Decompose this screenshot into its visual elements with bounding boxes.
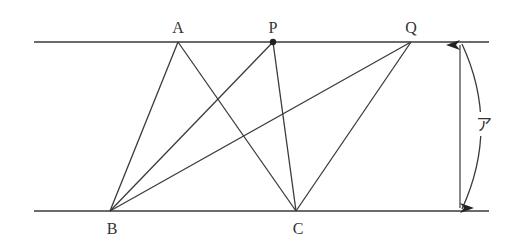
label-a: A [172, 19, 184, 36]
triangle-segments [110, 42, 411, 211]
segment-pc [273, 42, 296, 211]
segment-qb [110, 42, 411, 211]
label-b: B [107, 220, 118, 237]
label-q: Q [405, 19, 417, 36]
segment-ac [178, 42, 296, 211]
label-p: P [269, 19, 278, 36]
segment-ab [110, 42, 178, 211]
geometry-diagram: ア A P Q B C [0, 0, 524, 250]
segment-pb [110, 42, 273, 211]
distance-label: ア [476, 116, 492, 133]
point-p-dot [270, 39, 276, 45]
segment-qc [296, 42, 411, 211]
label-c: C [293, 220, 304, 237]
